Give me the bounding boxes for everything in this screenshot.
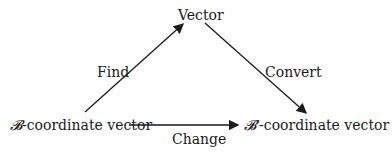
basis-b-symbol: 𝓑	[10, 118, 22, 133]
edge-label-find: Find	[97, 64, 129, 80]
basis-b-prime-symbol: 𝓑′	[244, 118, 259, 133]
node-vector: Vector	[178, 7, 224, 23]
node-b-coordinate-vector: 𝓑-coordinate vector	[10, 117, 152, 134]
edge-label-change: Change	[172, 131, 226, 147]
node-b-text: -coordinate vector	[22, 117, 152, 133]
node-b-prime-coordinate-vector: 𝓑′-coordinate vector	[244, 117, 389, 134]
node-b-prime-text: -coordinate vector	[259, 117, 389, 133]
edge-label-convert: Convert	[265, 64, 322, 80]
